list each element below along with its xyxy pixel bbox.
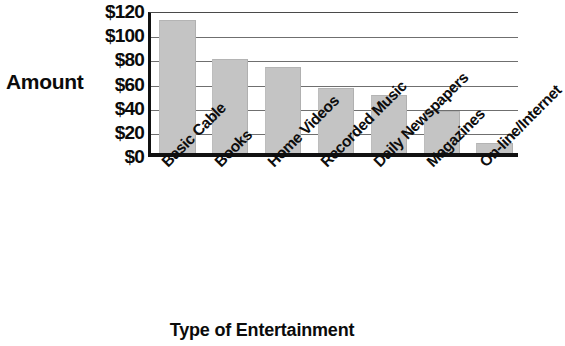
y-axis-tick-label: $120 [105, 2, 144, 22]
y-axis-tick-label: $80 [115, 50, 144, 70]
x-axis-tick-labels: Basic CableBooksHome VideosRecorded Musi… [148, 158, 524, 298]
y-axis-tick-label: $100 [105, 26, 144, 46]
y-axis-tick-label: $60 [115, 75, 144, 95]
y-axis-tick-label: $20 [115, 123, 144, 143]
y-axis-tick-label: $0 [124, 147, 144, 167]
x-axis-title: Type of Entertainment [0, 320, 524, 341]
y-axis-tick-labels: $0$20$40$60$80$100$120 [84, 12, 146, 158]
y-axis-tick-label: $40 [115, 99, 144, 119]
